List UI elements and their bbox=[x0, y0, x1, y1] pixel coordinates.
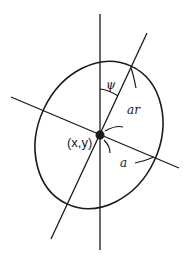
center-arc-lower bbox=[104, 140, 110, 153]
center-arc-upper bbox=[105, 127, 123, 132]
minor-axis-label: a bbox=[120, 156, 127, 170]
a-pointer-arc bbox=[135, 157, 154, 163]
angle-label: ψ bbox=[106, 78, 116, 92]
major-axis-label: ar bbox=[127, 103, 141, 117]
center-label: (x,y) bbox=[67, 135, 92, 150]
center-point bbox=[96, 131, 105, 140]
ar-pointer-arc bbox=[131, 68, 136, 88]
ellipse-diagram: (x,y) ψ ar a bbox=[0, 0, 190, 262]
